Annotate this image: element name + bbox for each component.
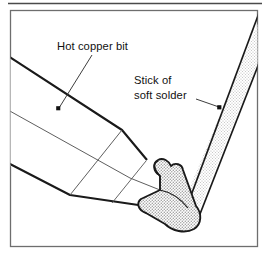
- marker-dot-hot-copper-bit: [56, 106, 60, 110]
- marker-dot-soft-solder: [217, 105, 221, 109]
- label-hot-copper-bit: Hot copper bit: [57, 40, 129, 52]
- label-stick-of-solder-line1: Stick of: [134, 74, 172, 86]
- label-stick-of-solder-line2: soft solder: [134, 89, 187, 101]
- soldering-illustration: Hot copper bit Stick of soft solder: [0, 0, 270, 255]
- figure-page: Hot copper bit Stick of soft solder: [0, 0, 270, 255]
